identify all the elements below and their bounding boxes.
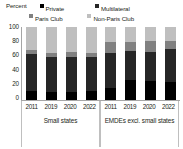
bar-segment-private — [145, 81, 156, 100]
legend-item-non-paris-club: Non-Paris Club — [87, 11, 134, 21]
legend-swatch-multilateral-icon — [95, 4, 99, 8]
legend-label-paris-club: Paris Club — [35, 15, 63, 22]
bar-segment-multilateral — [125, 51, 136, 80]
bar-segment-paris-club — [125, 42, 136, 51]
x-tick-label-2011: 2011 — [101, 101, 120, 113]
bar-column — [105, 27, 116, 101]
year-label-group: 2011201920202022 — [100, 101, 179, 113]
bar-column — [125, 27, 136, 101]
bar-column — [165, 27, 176, 101]
bar-segment-multilateral — [66, 57, 77, 92]
x-tick-label-2011: 2011 — [22, 101, 41, 113]
bar-segment-non-paris-club — [46, 27, 57, 53]
bar-segment-non-paris-club — [145, 27, 156, 42]
category-group-labels: Small statesEMDEs excl. small states — [21, 113, 180, 147]
bar-column — [86, 27, 97, 101]
legend-row-2: Paris Club Non-Paris Club — [29, 11, 134, 21]
bar-segment-multilateral — [145, 52, 156, 81]
chart-legend: Percent Private Multilateral Paris Club … — [0, 1, 183, 23]
y-tick-20: 20 — [12, 81, 19, 87]
x-tick-label-2019: 2019 — [120, 101, 139, 113]
legend-swatch-private-icon — [40, 4, 44, 8]
x-tick-label-2020: 2020 — [61, 101, 80, 113]
x-tick-label-2019: 2019 — [41, 101, 60, 113]
bar-segment-multilateral — [46, 57, 57, 92]
year-label-group: 2011201920202022 — [21, 101, 100, 113]
bar-segment-non-paris-club — [26, 27, 37, 51]
chart-axes — [21, 27, 180, 102]
bar-segment-paris-club — [165, 41, 176, 49]
x-tick-label-2022: 2022 — [80, 101, 99, 113]
y-tick-0: 0 — [16, 95, 19, 101]
bar-segment-private — [26, 91, 37, 100]
bar-segment-non-paris-club — [66, 27, 77, 53]
bar-segment-multilateral — [105, 53, 116, 88]
bar-segment-multilateral — [26, 54, 37, 91]
x-group-label: Small states — [21, 113, 100, 147]
category-year-labels: 20112019202020222011201920202022 — [21, 101, 180, 113]
plot-area: 100 80 60 40 20 0 2011201920202022201120… — [0, 24, 183, 149]
bar-segment-multilateral — [165, 49, 176, 82]
bar-segment-multilateral — [86, 57, 97, 91]
bar-segment-paris-club — [145, 41, 156, 51]
bar-segment-private — [165, 82, 176, 100]
bar-segment-private — [66, 92, 77, 100]
bar-segment-non-paris-club — [165, 27, 176, 42]
bar-segment-private — [125, 80, 136, 100]
bar-segment-paris-club — [105, 42, 116, 53]
chart-figure: Percent Private Multilateral Paris Club … — [0, 0, 183, 149]
y-tick-100: 100 — [9, 24, 19, 30]
y-axis-unit-label: Percent — [6, 1, 27, 11]
legend-label-non-paris-club: Non-Paris Club — [93, 15, 134, 22]
y-axis-labels: 100 80 60 40 20 0 — [0, 24, 20, 102]
legend-item-multilateral: Multilateral — [95, 1, 130, 11]
legend-item-paris-club: Paris Club — [29, 11, 63, 21]
bar-segment-private — [105, 88, 116, 100]
y-tick-40: 40 — [12, 67, 19, 73]
legend-row-1: Percent Private Multilateral — [6, 1, 130, 11]
x-tick-label-2020: 2020 — [140, 101, 159, 113]
x-group-label: EMDEs excl. small states — [100, 113, 179, 147]
x-tick-label-2022: 2022 — [159, 101, 178, 113]
bar-series-container — [22, 27, 180, 101]
bar-segment-non-paris-club — [105, 27, 116, 42]
y-tick-60: 60 — [12, 52, 19, 58]
bar-column — [46, 27, 57, 101]
y-tick-80: 80 — [12, 38, 19, 44]
bar-segment-private — [86, 91, 97, 100]
category-axis: 20112019202020222011201920202022 Small s… — [21, 101, 180, 147]
legend-swatch-non-paris-club-icon — [87, 14, 91, 18]
bar-segment-non-paris-club — [125, 27, 136, 42]
legend-swatch-paris-club-icon — [29, 14, 33, 18]
legend-item-private: Private — [40, 1, 65, 11]
bar-column — [66, 27, 77, 101]
bar-segment-private — [46, 92, 57, 100]
bar-segment-non-paris-club — [86, 27, 97, 53]
bar-column — [26, 27, 37, 101]
bar-column — [145, 27, 156, 101]
